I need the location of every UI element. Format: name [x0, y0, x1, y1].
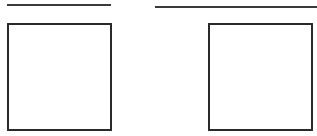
- right-square-box: [208, 23, 313, 131]
- diagram-canvas: [0, 0, 317, 136]
- left-square-box: [7, 23, 112, 131]
- left-horizontal-line: [7, 4, 111, 6]
- right-horizontal-line: [155, 6, 317, 8]
